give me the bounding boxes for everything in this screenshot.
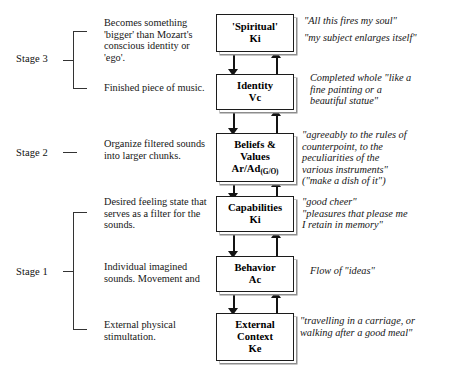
level-code: Ki [249, 214, 260, 227]
level-code-text: Ar/Ad [232, 163, 261, 174]
description-spiritual: Becomes something 'bigger' than Mozart's… [104, 17, 209, 63]
quote-line: I retain in memory" [302, 219, 452, 231]
arrow-head [271, 231, 281, 238]
level-box-capabilities[interactable]: Capabilities Ki [216, 196, 294, 232]
level-box-context[interactable]: External Context Ke [216, 313, 294, 361]
arrow-down-spiritual-identity [228, 51, 239, 76]
level-name: Capabilities [228, 202, 282, 214]
quote-line: "All this fires my soul" [304, 15, 452, 27]
level-code: Vc [249, 92, 261, 105]
arrow-shaft [276, 115, 278, 135]
arrow-head [271, 291, 281, 298]
arrow-shaft [233, 231, 235, 252]
level-box-identity[interactable]: Identity Vc [216, 74, 294, 110]
quote-capabilities: "good cheer" "pleasures that please me I… [302, 196, 452, 231]
quote-behavior: Flow of "ideas" [310, 265, 452, 277]
quote-line: fine painting or a [310, 84, 452, 96]
description-beliefs: Organize filtered sounds into larger chu… [104, 138, 209, 161]
quote-line: Completed whole "like a [310, 72, 452, 84]
arrow-shaft [233, 109, 235, 129]
arrow-head [271, 51, 281, 58]
diagram-canvas: Stage 3 Stage 2 Stage 1 Becomes somethin… [0, 0, 452, 370]
stage-label-2: Stage 2 [16, 147, 48, 158]
bracket-spine [73, 31, 74, 89]
connector-stage-2 [63, 152, 77, 153]
bracket-arm-bottom [73, 88, 87, 89]
arrow-shaft [233, 291, 235, 309]
arrow-down-capabilities-behavior [228, 231, 239, 258]
level-name: Beliefs & [234, 139, 275, 151]
description-behavior: Individual imagined sounds. Movement and [104, 261, 209, 284]
bracket-arm-top [73, 212, 87, 213]
quote-line: "pleasures that please me [302, 208, 452, 220]
level-box-beliefs[interactable]: Beliefs & Values Ar/Ad(G/O) [216, 133, 294, 182]
stage-label-1: Stage 1 [16, 266, 48, 277]
level-name-line2: Values [240, 151, 270, 163]
description-context: External physical stimultation. [104, 319, 209, 342]
bracket-arm-top [73, 31, 87, 32]
bracket-spine [73, 212, 74, 330]
arrow-shaft [276, 237, 278, 258]
quote-line: beautiful statue" [310, 95, 452, 107]
arrow-up-beliefs-identity [271, 109, 282, 135]
description-identity: Finished piece of music. [104, 82, 209, 94]
level-code: Ac [249, 274, 261, 287]
description-capabilities: Desired feeling state that serves as a f… [104, 196, 209, 231]
quote-line: "travelling in a carriage, or [300, 315, 452, 327]
level-code: Ke [249, 343, 262, 356]
level-box-behavior[interactable]: Behavior Ac [216, 256, 294, 292]
level-box-spiritual[interactable]: 'Spiritual' Ki [216, 14, 294, 52]
arrow-up-identity-spiritual [271, 51, 282, 76]
quote-line: peculiarities of the [302, 152, 452, 164]
quote-line: counterpoint, to the [302, 141, 452, 153]
bracket-arm-bottom [73, 329, 87, 330]
quote-line: walking after a good meal" [300, 327, 452, 339]
arrow-head [271, 109, 281, 116]
quote-line: "agreeably to the rules of [302, 129, 452, 141]
level-name: Behavior [234, 262, 275, 274]
arrow-up-context-behavior [271, 291, 282, 315]
level-name: External [235, 319, 274, 331]
level-code-subscript: (G/O) [260, 167, 278, 176]
arrow-shaft [233, 51, 235, 70]
arrow-down-identity-beliefs [228, 109, 239, 135]
stage-label-3: Stage 3 [16, 53, 48, 64]
quote-line: ("make a dish of it") [302, 175, 452, 187]
quote-line: various instruments" [302, 164, 452, 176]
arrow-up-behavior-capabilities [271, 231, 282, 258]
quote-context: "travelling in a carriage, or walking af… [300, 315, 452, 338]
arrow-shaft [233, 180, 235, 194]
level-name: 'Spiritual' [232, 21, 278, 33]
level-code: Ar/Ad(G/O) [232, 163, 279, 177]
level-code: Ki [249, 33, 260, 46]
quote-line: Flow of "ideas" [310, 265, 452, 277]
quote-line: "good cheer" [302, 196, 452, 208]
level-name-line2: Context [237, 331, 273, 343]
level-name: Identity [237, 80, 273, 92]
arrow-down-behavior-context [228, 291, 239, 315]
quote-spiritual: "All this fires my soul" "my subject enl… [304, 15, 452, 43]
quote-line: "my subject enlarges itself" [304, 32, 452, 44]
quote-identity: Completed whole "like a fine painting or… [310, 72, 452, 107]
quote-beliefs: "agreeably to the rules of counterpoint,… [302, 129, 452, 187]
